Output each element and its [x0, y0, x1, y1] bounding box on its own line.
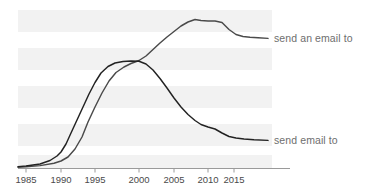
series-label-send-an-email-to: send an email to [274, 33, 353, 44]
x-tick-label-2015: 2015 [223, 175, 244, 185]
series-label-send-email-to: send email to [274, 135, 338, 146]
series-line-send-email-to [18, 61, 268, 167]
x-tick-label-2005: 2005 [163, 175, 184, 185]
x-tick-label-1985: 1985 [15, 175, 36, 185]
x-axis-ticks [26, 169, 234, 173]
band-1 [18, 10, 272, 32]
x-tick-label-1995: 1995 [84, 175, 105, 185]
x-tick-label-2000: 2000 [128, 175, 149, 185]
band-2 [18, 48, 272, 70]
x-tick-label-1990: 1990 [50, 175, 71, 185]
x-tick-label-2010: 2010 [197, 175, 218, 185]
band-4 [18, 124, 272, 146]
band-3 [18, 86, 272, 108]
ngram-chart: send an email to send email to 1985 1990… [0, 0, 370, 195]
chart-plot-area [0, 0, 370, 195]
